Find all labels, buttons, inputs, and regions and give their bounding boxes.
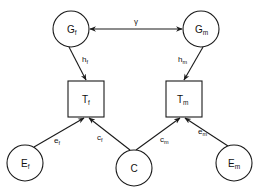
edge-hf: hf: [69, 47, 88, 80]
node-Gf: Gf: [53, 11, 89, 47]
arrow-icon: [136, 118, 180, 150]
edge-ef: ef: [34, 118, 84, 147]
edge-cf: cf: [89, 118, 130, 150]
node-Gm: Gm: [183, 11, 219, 47]
node-label-C: C: [130, 163, 137, 174]
edge-label-cm: cm: [160, 135, 169, 145]
edge-label-ef: ef: [54, 136, 60, 146]
edge-gamma: γ: [90, 17, 182, 29]
arrow-icon: [89, 118, 130, 150]
edge-label-hm: hm: [178, 55, 187, 65]
edge-hm: hm: [178, 47, 203, 80]
node-Tm: Tm: [166, 81, 202, 117]
path-diagram: γ hf hm ef cf cm em Gf Gm Tf Tm: [0, 0, 264, 193]
edge-label-em: em: [198, 127, 207, 137]
edge-em: em: [185, 118, 228, 146]
edge-label-gamma: γ: [134, 17, 138, 26]
edge-cm: cm: [136, 118, 180, 150]
edge-label-cf: cf: [97, 133, 103, 143]
node-Em: Em: [216, 145, 252, 181]
edge-label-hf: hf: [82, 55, 88, 65]
node-C: C: [116, 150, 152, 186]
node-Tf: Tf: [68, 81, 104, 117]
node-Ef: Ef: [7, 145, 43, 181]
